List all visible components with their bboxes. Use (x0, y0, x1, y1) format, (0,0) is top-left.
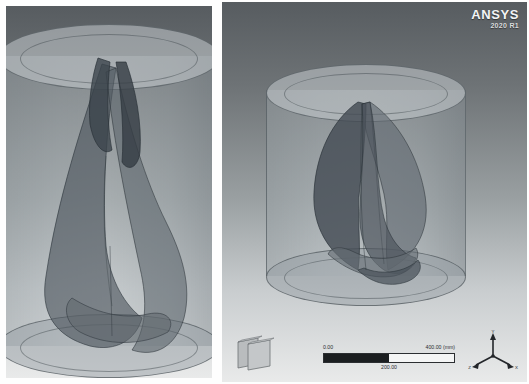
scale-bar: 0.00 400.00 (mm) 200.00 (323, 344, 455, 370)
triad-z-label: Z (468, 365, 471, 370)
turbine-blade-right (266, 58, 466, 308)
ansys-logo: ANSYS 2020 R1 (471, 8, 519, 30)
triad-x-label: X (515, 365, 518, 370)
scale-bar-filled-segment (324, 354, 389, 362)
triad-y-label: Y (492, 330, 495, 334)
left-view-label: Zoomed isometric view of helical turbine… (0, 0, 1, 1)
screenshot-root: ANSYS 2020 R1 (0, 0, 529, 384)
ansys-release-text: 2020 R1 (471, 21, 519, 30)
scale-bar-max-label: 400.00 (mm) (426, 344, 455, 350)
graphics-viewport-right[interactable]: ANSYS 2020 R1 (222, 2, 527, 382)
scale-bar-min-label: 0.00 (323, 344, 333, 350)
axis-triad[interactable]: Y X Z (467, 330, 519, 376)
scale-bar-labels: 0.00 400.00 (mm) (323, 344, 455, 353)
graphics-viewport-left[interactable] (6, 6, 212, 378)
turbine-blade-left-1 (6, 6, 212, 378)
right-view-label: Full isometric view of helical turbine i… (0, 0, 1, 1)
scale-bar-track (323, 353, 455, 363)
scale-bar-mid-label: 200.00 (323, 364, 455, 370)
plate-bodies-icon (236, 332, 284, 372)
scale-bar-empty-segment (389, 354, 454, 362)
ansys-logo-text: ANSYS (471, 8, 519, 21)
